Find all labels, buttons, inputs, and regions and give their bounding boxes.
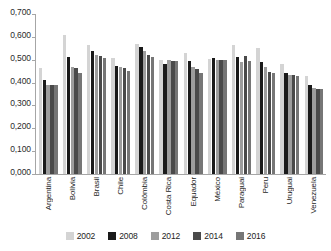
bar	[78, 73, 81, 174]
legend-item: 2002	[66, 231, 96, 241]
x-axis-tick-label: México	[213, 177, 222, 202]
plot-area: 0,7000,6000,5000,4000,3000,2000,1000,000…	[0, 0, 331, 182]
x-axis-tick: Peru	[254, 177, 278, 227]
bar	[135, 44, 138, 174]
y-axis-tick-label: 0,500	[10, 53, 31, 63]
bar	[195, 69, 198, 174]
y-axis-tick-label: 0,000	[10, 167, 31, 177]
bar	[288, 75, 291, 174]
bar	[248, 61, 251, 174]
legend-swatch	[66, 232, 74, 240]
bar	[320, 89, 323, 174]
bar	[191, 67, 194, 174]
bar	[127, 71, 130, 174]
bar	[171, 61, 174, 174]
bar	[284, 73, 287, 174]
bar	[74, 68, 77, 175]
legend-label: 2002	[77, 231, 96, 241]
x-axis-tick-label: Costa Rica	[164, 177, 173, 215]
x-axis-tick-label: Bolívia	[68, 177, 77, 200]
bar	[119, 67, 122, 174]
x-axis-tick: Costa Rica	[157, 177, 181, 227]
x-axis-tick-label: Colômbia	[140, 177, 149, 210]
legend-item: 2012	[151, 231, 181, 241]
legend-label: 2014	[204, 231, 223, 241]
bar	[111, 58, 114, 174]
bar	[103, 58, 106, 174]
bar	[175, 61, 178, 174]
bar	[43, 80, 46, 174]
bar-group	[205, 14, 229, 174]
bar	[50, 85, 53, 174]
bar	[143, 51, 146, 174]
bar	[268, 72, 271, 174]
bar	[308, 85, 311, 174]
bar	[272, 73, 275, 174]
bar-group	[181, 14, 205, 174]
bar	[95, 55, 98, 174]
bar	[91, 51, 94, 174]
bar	[159, 60, 162, 174]
grouped-bar-chart: 0,7000,6000,5000,4000,3000,2000,1000,000…	[0, 0, 331, 251]
bar	[244, 56, 247, 174]
y-axis-tick-label: 0,100	[10, 144, 31, 154]
x-axis-tick-label: Argentina	[44, 177, 53, 210]
x-axis-tick: Colômbia	[133, 177, 157, 227]
legend-swatch	[193, 232, 201, 240]
bar	[236, 57, 239, 174]
bar	[208, 59, 211, 174]
bar	[305, 76, 308, 174]
bar	[212, 58, 215, 174]
bar-group	[254, 14, 278, 174]
legend-label: 2012	[162, 231, 181, 241]
bar	[264, 67, 267, 174]
bar	[296, 76, 299, 174]
y-axis-tick-mark	[32, 128, 35, 129]
x-axis-tick-label: Chile	[116, 177, 125, 195]
x-axis-tick-label: Uruguai	[285, 177, 294, 204]
bar-group	[133, 14, 157, 174]
x-axis-tick: Brasil	[84, 177, 108, 227]
legend-item: 2016	[236, 231, 266, 241]
x-axis-tick: Uruguai	[278, 177, 302, 227]
bar	[199, 73, 202, 174]
y-axis-tick-label: 0,300	[10, 98, 31, 108]
bar	[99, 56, 102, 174]
legend-swatch	[151, 232, 159, 240]
bar-group	[278, 14, 302, 174]
x-axis-tick: Equador	[181, 177, 205, 227]
legend-label: 2016	[247, 231, 266, 241]
bar	[188, 61, 191, 174]
bar	[67, 57, 70, 174]
bar	[115, 66, 118, 174]
bar	[256, 48, 259, 174]
bar	[232, 45, 235, 174]
legend-item: 2008	[108, 231, 138, 241]
bar-group	[302, 14, 326, 174]
x-axis-tick-label: Equador	[189, 177, 198, 207]
x-axis-tick-label: Peru	[261, 177, 270, 194]
x-axis-tick: México	[205, 177, 229, 227]
x-axis-tick: Chile	[109, 177, 133, 227]
legend-label: 2008	[119, 231, 138, 241]
y-axis-tick-label: 0,700	[10, 7, 31, 17]
chart-legend: 20022008201220142016	[0, 228, 331, 244]
bar	[260, 62, 263, 174]
bar-group	[229, 14, 253, 174]
bar	[71, 67, 74, 174]
bar	[39, 68, 42, 174]
x-axis: ArgentinaBolíviaBrasilChileColômbiaCosta…	[36, 177, 326, 227]
bar	[219, 60, 222, 174]
bar	[312, 88, 315, 174]
y-axis-tick-mark	[32, 37, 35, 38]
x-axis-tick-label: Paraguai	[237, 177, 246, 208]
bar	[46, 85, 49, 174]
bar-group	[109, 14, 133, 174]
bar-group	[60, 14, 84, 174]
bar	[223, 60, 226, 174]
bar	[151, 57, 154, 174]
y-axis-tick-label: 0,600	[10, 30, 31, 40]
x-axis-line	[35, 174, 326, 175]
x-axis-tick-label: Brasil	[92, 177, 101, 196]
y-axis: 0,7000,6000,5000,4000,3000,2000,1000,000	[0, 12, 33, 176]
